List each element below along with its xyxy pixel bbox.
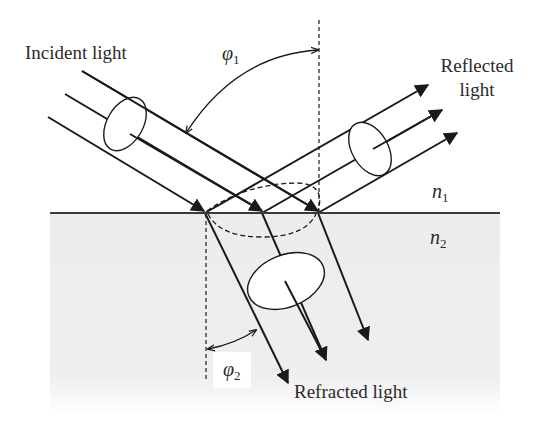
incident-light-label: Incident light [25,42,127,64]
reflected-light-label: Reflected light [432,54,522,102]
reflected-polarization-ellipse [340,115,400,183]
n2-subscript: 2 [440,236,447,251]
phi2-symbol: φ [223,358,234,380]
n2-symbol: n [430,226,440,248]
phi2-label: φ2 [223,358,241,384]
diagram-canvas: Incident light Reflected light Refracted… [0,0,551,428]
incident-beam [48,71,318,211]
incident-polarization-ellipse [95,90,155,158]
n1-subscript: 1 [442,190,449,205]
phi1-subscript: 1 [233,52,240,67]
beam-footprint-dashed [207,183,320,211]
n1-symbol: n [432,180,442,202]
reflected-label-line1: Reflected [432,54,522,78]
n2-label: n2 [430,226,447,252]
n1-label: n1 [432,180,449,206]
phi1-angle-arc [186,50,318,133]
phi1-label: φ1 [222,42,240,68]
reflected-label-line2: light [432,78,522,102]
phi2-subscript: 2 [234,368,241,383]
refracted-light-label: Refracted light [294,381,407,403]
reflected-beam [205,85,457,213]
phi1-symbol: φ [222,42,233,64]
